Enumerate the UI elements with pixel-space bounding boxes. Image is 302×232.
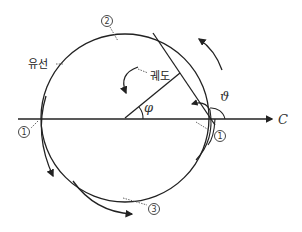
trajectory-arrow-arc bbox=[124, 67, 138, 93]
svg-text:2: 2 bbox=[104, 17, 109, 26]
phi-label: φ bbox=[144, 100, 154, 115]
svg-text:1: 1 bbox=[217, 132, 222, 141]
streamline-trajectory-diagram: 2 1 1 3 유선 궤도 φ ϑ C bbox=[0, 0, 302, 232]
theta-label: ϑ bbox=[220, 89, 229, 104]
leader-line-1-right bbox=[196, 122, 212, 132]
marker-3-bottom: 3 bbox=[149, 204, 160, 215]
marker-2-top: 2 bbox=[102, 16, 113, 27]
svg-text:3: 3 bbox=[151, 205, 156, 214]
marker-1-left: 1 bbox=[19, 127, 30, 138]
leader-line-trajectory bbox=[138, 69, 148, 73]
svg-text:1: 1 bbox=[21, 128, 26, 137]
streamline-label: 유선 bbox=[28, 58, 48, 71]
bottom-offset-arc bbox=[73, 181, 132, 214]
c-axis-label: C bbox=[278, 112, 288, 127]
leader-line-1-left bbox=[31, 121, 38, 128]
theta-angle-arc bbox=[210, 108, 225, 119]
trajectory-label: 궤도 bbox=[150, 70, 170, 83]
marker-1-right: 1 bbox=[215, 131, 226, 142]
phi-angle-arc bbox=[139, 107, 143, 119]
rotation-arrow-arc bbox=[199, 39, 222, 70]
